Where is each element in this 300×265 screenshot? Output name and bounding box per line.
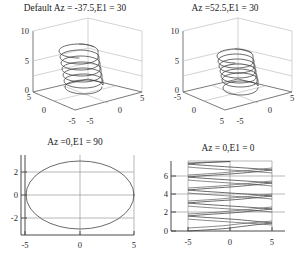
y-tick-0: 0	[164, 226, 168, 236]
axes-box-bottom-left	[21, 155, 134, 235]
y-tick-right-1: 0	[268, 105, 272, 115]
plot-panel-top-right: Az =52.5,E1 = 30 10 5 0	[150, 0, 300, 133]
x-tick-5: 5	[270, 237, 274, 247]
z-tick-10: 10	[170, 26, 179, 36]
panel-title-bottom-right: Az = 0,E1 = 0	[201, 143, 254, 153]
y-tick-right-2: 5	[140, 93, 144, 103]
helix-curve-top-right	[217, 49, 258, 95]
y-tick-right-0: -5	[236, 116, 243, 126]
y-tick-0: 0	[14, 190, 18, 200]
x-tick-labels-bottom-right: -5 0 5	[184, 237, 274, 247]
x-tick-left-1: 0	[192, 105, 196, 115]
y-tick-labels-bottom-right: 6 4 2 0	[164, 171, 169, 236]
y-tick-minus2: -2	[11, 213, 18, 223]
plot-panel-bottom-left: Az =0,E1 = 90 2	[0, 132, 150, 265]
helix-view-angles-figure: Default Az = -37.5,E1 = 30	[0, 0, 300, 265]
panel-title-top-right: Az =52.5,E1 = 30	[191, 3, 258, 13]
z-tick-labels-top-right: 10 5 0	[170, 26, 179, 95]
z-tick-5: 5	[25, 56, 29, 66]
x-tick-minus5: -5	[184, 237, 191, 247]
x-tick-left-0: -5	[174, 92, 181, 102]
z-tick-5: 5	[175, 56, 179, 66]
y-tick-right-0: -5	[86, 116, 93, 126]
x-tick-left-1: 0	[42, 105, 46, 115]
x-tick-0: 0	[78, 240, 82, 250]
y-tick-labels-bottom-left: 2 0 -2	[11, 167, 18, 223]
panel-title-bottom-left: Az =0,E1 = 90	[47, 137, 103, 147]
y-tick-6: 6	[164, 171, 169, 181]
y-tick-right-1: 0	[118, 105, 122, 115]
x-tick-0: 0	[228, 237, 232, 247]
axes-box-top-left	[33, 18, 142, 110]
z-tick-10: 10	[20, 26, 29, 36]
floor-tick-labels-top-right: -5 0 5 -5 0 5	[174, 92, 294, 126]
x-tick-left-2: 5	[220, 116, 224, 126]
x-tick-left-0: 5	[27, 92, 31, 102]
plot-panel-bottom-right: Az = 0,E1 = 0	[150, 132, 300, 265]
plot-panel-top-left: Default Az = -37.5,E1 = 30	[0, 0, 150, 133]
x-tick-left-2: -5	[68, 116, 75, 126]
y-tick-2: 2	[14, 167, 18, 177]
x-tick-minus5: -5	[21, 240, 28, 250]
y-tick-4: 4	[164, 189, 169, 199]
x-tick-5: 5	[132, 240, 136, 250]
y-tick-right-2: 5	[290, 93, 294, 103]
x-tick-labels-bottom-left: -5 0 5	[21, 240, 136, 250]
panel-title-top-left: Default Az = -37.5,E1 = 30	[24, 3, 127, 13]
z-tick-labels-top-left: 10 5 0	[20, 26, 29, 95]
y-tick-2: 2	[164, 207, 168, 217]
